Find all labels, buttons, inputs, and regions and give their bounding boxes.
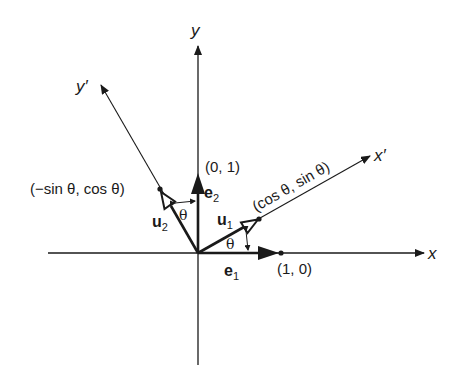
u2-label: u2 (152, 213, 168, 233)
point-neg-sin-cos-dot (157, 186, 162, 191)
e2-vector (191, 173, 205, 253)
angle-arc-upper (175, 201, 195, 203)
theta-label-lower: θ (226, 236, 234, 252)
point-cos-sin-label: (cos θ, sin θ) (249, 158, 332, 215)
e1-label: e1 (224, 262, 239, 282)
theta-label-upper: θ (179, 207, 187, 223)
rotation-diagram: x y x′ y′ θ θ e (0, 0, 463, 386)
point-cos-sin-dot (256, 216, 261, 221)
y-axis-label: y (190, 21, 201, 40)
u1-label: u1 (217, 211, 233, 231)
point-neg-sin-cos-label: (−sin θ, cos θ) (30, 180, 125, 197)
point-0-1-label: (0, 1) (205, 158, 240, 175)
e1-vector (198, 246, 279, 260)
y-prime-label: y′ (75, 77, 89, 96)
point-1-0-label: (1, 0) (277, 260, 312, 277)
x-axis-label: x (427, 244, 437, 263)
x-prime-label: x′ (373, 146, 387, 165)
e2-label: e2 (204, 184, 219, 204)
point-1-0-dot (278, 250, 283, 255)
